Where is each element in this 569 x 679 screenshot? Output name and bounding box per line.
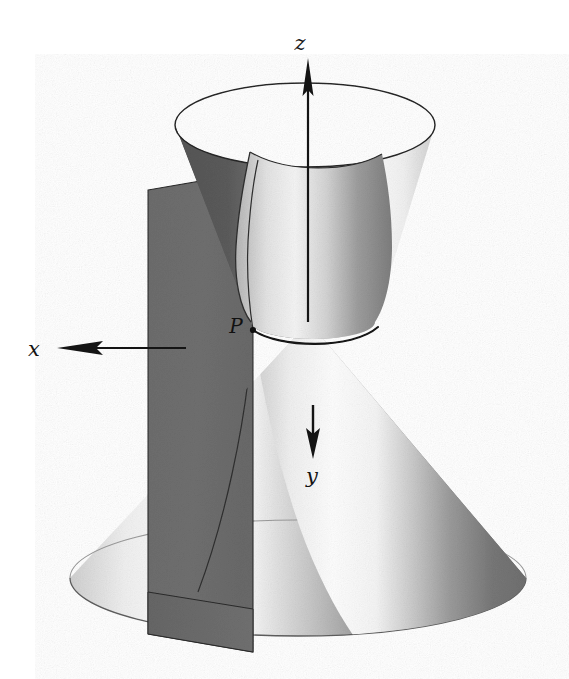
point-p-dot (250, 327, 256, 333)
z-axis-label: z (293, 31, 306, 55)
y-axis-label: y (305, 464, 319, 488)
upper-cone-outer-wall (236, 152, 392, 339)
point-p-label: P (228, 314, 243, 338)
x-axis-label: x (28, 337, 40, 361)
cone-plane-diagram: z x y P (0, 0, 569, 679)
figure-root: z x y P (0, 0, 569, 679)
